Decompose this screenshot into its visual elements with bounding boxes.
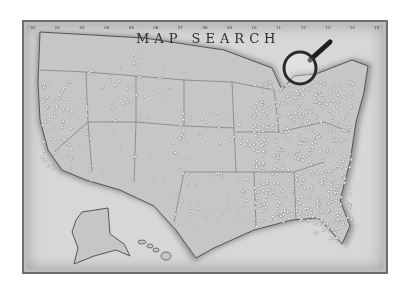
alaska bbox=[72, 208, 130, 264]
magnifying-glass-icon bbox=[272, 34, 342, 94]
map-frame: 01 02 03 04 05 06 07 08 09 10 11 12 13 1… bbox=[22, 20, 388, 274]
map-title: MAP SEARCH bbox=[136, 31, 280, 46]
hawaii bbox=[138, 240, 171, 260]
